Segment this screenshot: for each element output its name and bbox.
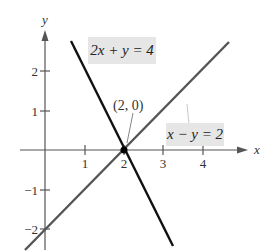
point-leader-line <box>127 113 133 143</box>
y-axis-arrow-icon <box>42 30 49 41</box>
point-label: (2, 0) <box>113 98 144 114</box>
tick-label-ym2: −2 <box>24 222 38 237</box>
equation-label-2: x − y = 2 <box>166 123 224 146</box>
eq2-leader-line <box>187 104 189 124</box>
line-x-minus-y-eq-2 <box>25 42 229 250</box>
tick-label-y1: 1 <box>32 104 39 119</box>
x-axis-label: x <box>253 142 260 157</box>
tick-label-x2: 2 <box>121 156 128 171</box>
intersection-point <box>121 147 128 154</box>
equation-label-2-text: x − y = 2 <box>167 126 223 143</box>
tick-label-y2: 2 <box>32 64 39 79</box>
tick-label-ym1: −1 <box>24 183 38 198</box>
tick-label-x1: 1 <box>82 156 89 171</box>
tick-label-x4: 4 <box>200 156 207 171</box>
x-axis-arrow-icon <box>237 147 248 154</box>
equation-label-1-text: 2x + y = 4 <box>90 42 154 59</box>
tick-label-x3: 3 <box>160 156 167 171</box>
line-2x-plus-y-eq-4 <box>71 41 173 246</box>
equation-label-1: 2x + y = 4 <box>88 37 156 64</box>
y-axis-label: y <box>40 12 48 27</box>
